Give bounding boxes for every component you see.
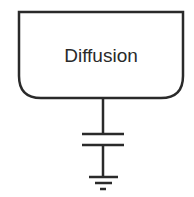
diffusion-diagram: Diffusion xyxy=(0,0,194,197)
ground-icon xyxy=(89,177,118,189)
capacitor-icon xyxy=(82,134,124,145)
block-label: Diffusion xyxy=(64,45,138,66)
